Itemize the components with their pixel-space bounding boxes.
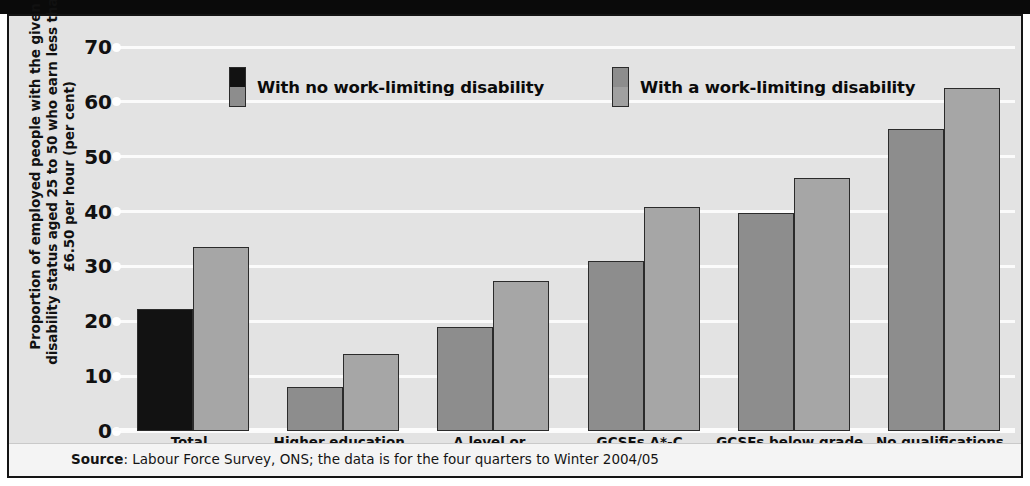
- y-axis-tick-label: 20: [52, 309, 112, 333]
- legend-swatch: [229, 67, 246, 107]
- bar-with-work-limiting-disability: [644, 207, 700, 431]
- bar-no-work-limiting-disability: [588, 261, 644, 431]
- legend-item: With a work-limiting disability: [612, 67, 915, 107]
- source-note: Source: Labour Force Survey, ONS; the da…: [71, 451, 659, 467]
- legend-swatch-top: [230, 68, 245, 87]
- legend-swatch-top: [613, 68, 628, 87]
- legend-label: With no work-limiting disability: [257, 78, 544, 97]
- source-footer: Source: Labour Force Survey, ONS; the da…: [9, 443, 1021, 476]
- legend-swatch-bottom: [230, 87, 245, 106]
- bar-with-work-limiting-disability: [493, 281, 549, 431]
- bar-with-work-limiting-disability: [193, 247, 249, 431]
- y-axis-tick-label: 10: [52, 364, 112, 388]
- legend-swatch-bottom: [613, 87, 628, 106]
- y-axis-tick-label: 60: [52, 90, 112, 114]
- bar-with-work-limiting-disability: [944, 88, 1000, 431]
- bar-no-work-limiting-disability: [137, 309, 193, 431]
- y-axis-tick-label: 30: [52, 254, 112, 278]
- legend-item: With no work-limiting disability: [229, 67, 544, 107]
- y-axis-tick-label: 70: [52, 35, 112, 59]
- bar-no-work-limiting-disability: [738, 213, 794, 431]
- legend-swatch: [612, 67, 629, 107]
- bar-with-work-limiting-disability: [794, 178, 850, 431]
- source-label: Source: [71, 451, 123, 467]
- plot-region: 010203040506070 With no work-limiting di…: [114, 47, 1015, 431]
- chart-area: Proportion of employed people with the g…: [9, 16, 1021, 446]
- figure-frame: Proportion of employed people with the g…: [7, 14, 1023, 478]
- y-axis-tick-label: 50: [52, 145, 112, 169]
- bar-with-work-limiting-disability: [343, 354, 399, 431]
- bar-no-work-limiting-disability: [437, 327, 493, 431]
- bar-no-work-limiting-disability: [888, 129, 944, 431]
- source-detail: : Labour Force Survey, ONS; the data is …: [123, 451, 658, 467]
- y-axis-tick-label: 0: [52, 419, 112, 443]
- y-axis-tick-label: 40: [52, 200, 112, 224]
- legend-label: With a work-limiting disability: [640, 78, 915, 97]
- top-black-band: [0, 0, 1030, 14]
- figure-page: Proportion of employed people with the g…: [0, 0, 1030, 486]
- bar-no-work-limiting-disability: [287, 387, 343, 431]
